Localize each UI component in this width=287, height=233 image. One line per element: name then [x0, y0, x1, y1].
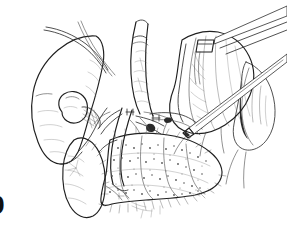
surgical-illustration: [0, 0, 287, 233]
figure-number-label: 9: [0, 192, 5, 219]
figure-container: 9: [0, 0, 287, 233]
figure-background: [0, 0, 287, 233]
